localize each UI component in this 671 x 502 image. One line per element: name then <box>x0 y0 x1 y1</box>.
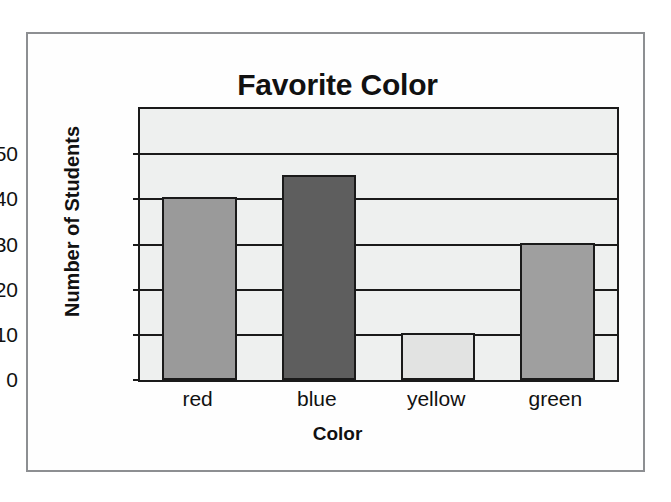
figure-frame: Favorite Color Number of Students 010203… <box>26 32 645 472</box>
x-tick-label-green: green <box>496 387 615 411</box>
y-tick-mark-30 <box>133 244 140 246</box>
y-tick-label-0: 0 <box>0 369 18 390</box>
y-tick-label-10: 10 <box>0 324 18 345</box>
y-tick-mark-10 <box>133 334 140 336</box>
y-tick-label-30: 30 <box>0 234 18 255</box>
y-tick-label-50: 50 <box>0 143 18 164</box>
y-tick-mark-50 <box>133 153 140 155</box>
y-tick-mark-20 <box>133 289 140 291</box>
bar-yellow[interactable] <box>401 333 476 380</box>
bar-green[interactable] <box>520 243 595 381</box>
bar-blue[interactable] <box>282 175 357 380</box>
gridline-y-50 <box>140 153 617 155</box>
x-tick-label-blue: blue <box>257 387 376 411</box>
x-tick-label-yellow: yellow <box>377 387 496 411</box>
y-tick-label-20: 20 <box>0 279 18 300</box>
x-axis-title: Color <box>28 423 647 445</box>
y-tick-label-40: 40 <box>0 188 18 209</box>
y-tick-mark-0 <box>133 379 140 381</box>
y-tick-mark-40 <box>133 198 140 200</box>
x-tick-label-red: red <box>138 387 257 411</box>
chart-title: Favorite Color <box>28 68 647 102</box>
y-axis-title: Number of Students <box>61 97 84 347</box>
plot-area: 01020304050 <box>138 107 619 382</box>
bar-red[interactable] <box>162 197 237 380</box>
plot-inner: 01020304050 <box>140 109 617 380</box>
